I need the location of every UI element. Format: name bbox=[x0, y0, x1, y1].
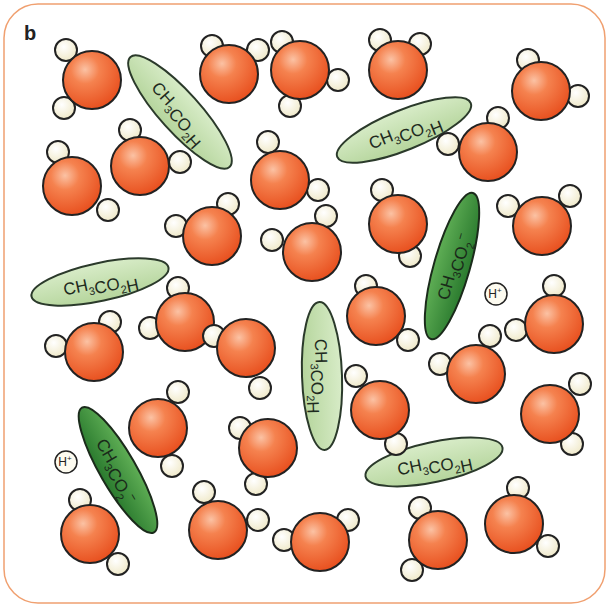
oxygen-atom bbox=[525, 295, 583, 353]
hydrogen-atom bbox=[307, 179, 329, 201]
diagram-panel: b CH3CO2HCH3CO2HCH3CO2HCH3CO2HCH3CO2HCH3… bbox=[0, 0, 609, 607]
oxygen-atom bbox=[521, 385, 579, 443]
oxygen-atom bbox=[129, 399, 187, 457]
hydrogen-atom bbox=[169, 151, 191, 173]
oxygen-atom bbox=[65, 323, 123, 381]
molecule-diagram: b CH3CO2HCH3CO2HCH3CO2HCH3CO2HCH3CO2HCH3… bbox=[0, 0, 609, 607]
oxygen-atom bbox=[291, 513, 349, 571]
panel-label: b bbox=[24, 22, 36, 44]
hydrogen-atom bbox=[257, 131, 279, 153]
proton: H+ bbox=[55, 451, 77, 473]
hydrogen-atom bbox=[559, 185, 581, 207]
oxygen-atom bbox=[183, 207, 241, 265]
oxygen-atom bbox=[271, 41, 329, 99]
hydrogen-atom bbox=[45, 335, 67, 357]
oxygen-atom bbox=[512, 62, 570, 120]
oxygen-atom bbox=[369, 195, 427, 253]
oxygen-atom bbox=[351, 381, 409, 439]
oxygen-atom bbox=[347, 287, 405, 345]
oxygen-atom bbox=[43, 157, 101, 215]
hydrogen-atom bbox=[543, 275, 565, 297]
oxygen-atom bbox=[239, 419, 297, 477]
oxygen-atom bbox=[251, 151, 309, 209]
hydrogen-atom bbox=[161, 455, 183, 477]
oxygen-atom bbox=[111, 137, 169, 195]
oxygen-atom bbox=[61, 505, 119, 563]
oxygen-atom bbox=[447, 345, 505, 403]
hydrogen-atom bbox=[249, 377, 271, 399]
hydrogen-atom bbox=[569, 373, 591, 395]
hydrogen-atom bbox=[345, 365, 367, 387]
hydrogen-atom bbox=[247, 509, 269, 531]
oxygen-atom bbox=[513, 197, 571, 255]
oxygen-atom bbox=[200, 45, 258, 103]
oxygen-atom bbox=[369, 41, 427, 99]
hydrogen-atom bbox=[167, 381, 189, 403]
hydrogen-atom bbox=[97, 199, 119, 221]
proton: H+ bbox=[485, 283, 507, 305]
hydrogen-atom bbox=[479, 325, 501, 347]
hydrogen-atom bbox=[327, 69, 349, 91]
oxygen-atom bbox=[409, 511, 467, 569]
hydrogen-atom bbox=[261, 229, 283, 251]
hydrogen-atom bbox=[107, 553, 129, 575]
oxygen-atom bbox=[63, 51, 121, 109]
oxygen-atom bbox=[217, 319, 275, 377]
oxygen-atom bbox=[189, 501, 247, 559]
hydrogen-atom bbox=[193, 481, 215, 503]
hydrogen-atom bbox=[505, 319, 527, 341]
oxygen-atom bbox=[485, 495, 543, 553]
oxygen-atom bbox=[283, 223, 341, 281]
hydrogen-atom bbox=[437, 133, 459, 155]
oxygen-atom bbox=[459, 123, 517, 181]
